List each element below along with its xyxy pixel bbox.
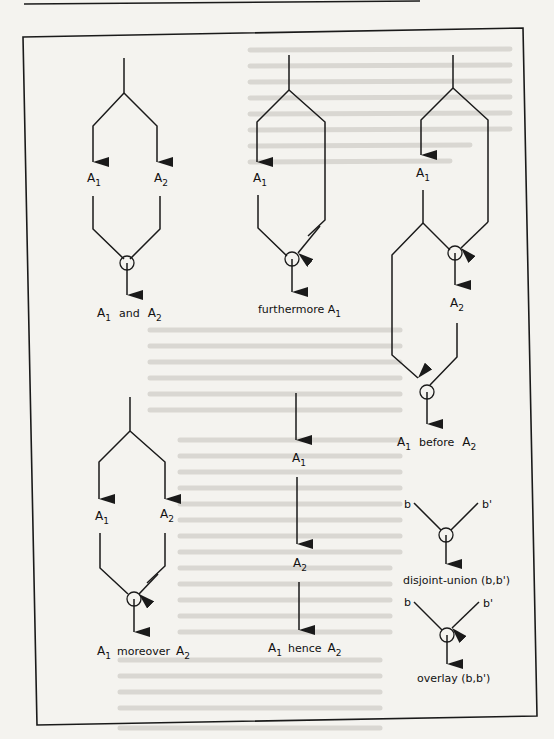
diagram-furthermore: A1 furthermore A1 <box>253 55 341 319</box>
merge-edge-left <box>258 195 287 256</box>
caption-before: A1beforeA2 <box>397 435 476 452</box>
figure-page: A1 A2 A1andA2 A1 furthermore A1 A1 A2 <box>0 0 554 739</box>
input-label-b-prime: b' <box>483 597 493 610</box>
input-edge-b-prime <box>451 503 478 530</box>
diagram-and: A1 A2 A1andA2 <box>87 58 168 323</box>
merge-edge-left <box>93 196 124 259</box>
input-label-b-prime: b' <box>482 498 492 511</box>
merge-edge-left <box>100 533 128 594</box>
node-a2: A2 <box>160 507 174 524</box>
header-rule <box>24 1 420 4</box>
branch-edge-right <box>124 93 157 162</box>
a2-merge-edge <box>430 323 457 385</box>
branch-edge-right <box>453 88 488 222</box>
merge-edge-right <box>130 196 160 259</box>
caption-hence: A1henceA2 <box>268 641 341 658</box>
incoming-arrow <box>461 222 488 248</box>
input-arrow-b-prime <box>452 602 479 628</box>
input-label-b: b <box>404 596 411 609</box>
branch-edge-left <box>93 93 124 162</box>
node-a2: A2 <box>450 296 464 313</box>
branch-edge-left <box>257 90 289 162</box>
incoming-arrow <box>139 574 158 594</box>
input-edge-b <box>414 503 441 530</box>
node-a2: A2 <box>154 171 168 188</box>
diagram-overlay: b b' overlay (b,b') <box>404 596 493 685</box>
branch-edge-left <box>99 431 130 499</box>
bleed-through-texture <box>120 49 510 728</box>
node-a1: A1 <box>95 509 109 526</box>
input-edge-b <box>414 602 442 630</box>
caption-furthermore: furthermore A1 <box>258 303 341 319</box>
diagram-moreover: A1 A2 A1moreoverA2 <box>95 397 190 661</box>
caption-and: A1andA2 <box>97 306 162 323</box>
a1-left-path <box>392 223 423 378</box>
node-a1: A1 <box>416 166 430 183</box>
branch-edge-right <box>130 431 165 499</box>
incoming-arrow <box>298 226 320 253</box>
node-a1: A1 <box>87 171 101 188</box>
caption-disjoint-union: disjoint-union (b,b') <box>403 574 510 587</box>
diagram-disjoint-union: b b' disjoint-union (b,b') <box>403 498 510 587</box>
a1-right-path <box>423 223 450 250</box>
node-a1: A1 <box>253 171 267 188</box>
input-label-b: b <box>404 498 411 511</box>
caption-overlay: overlay (b,b') <box>417 672 490 685</box>
